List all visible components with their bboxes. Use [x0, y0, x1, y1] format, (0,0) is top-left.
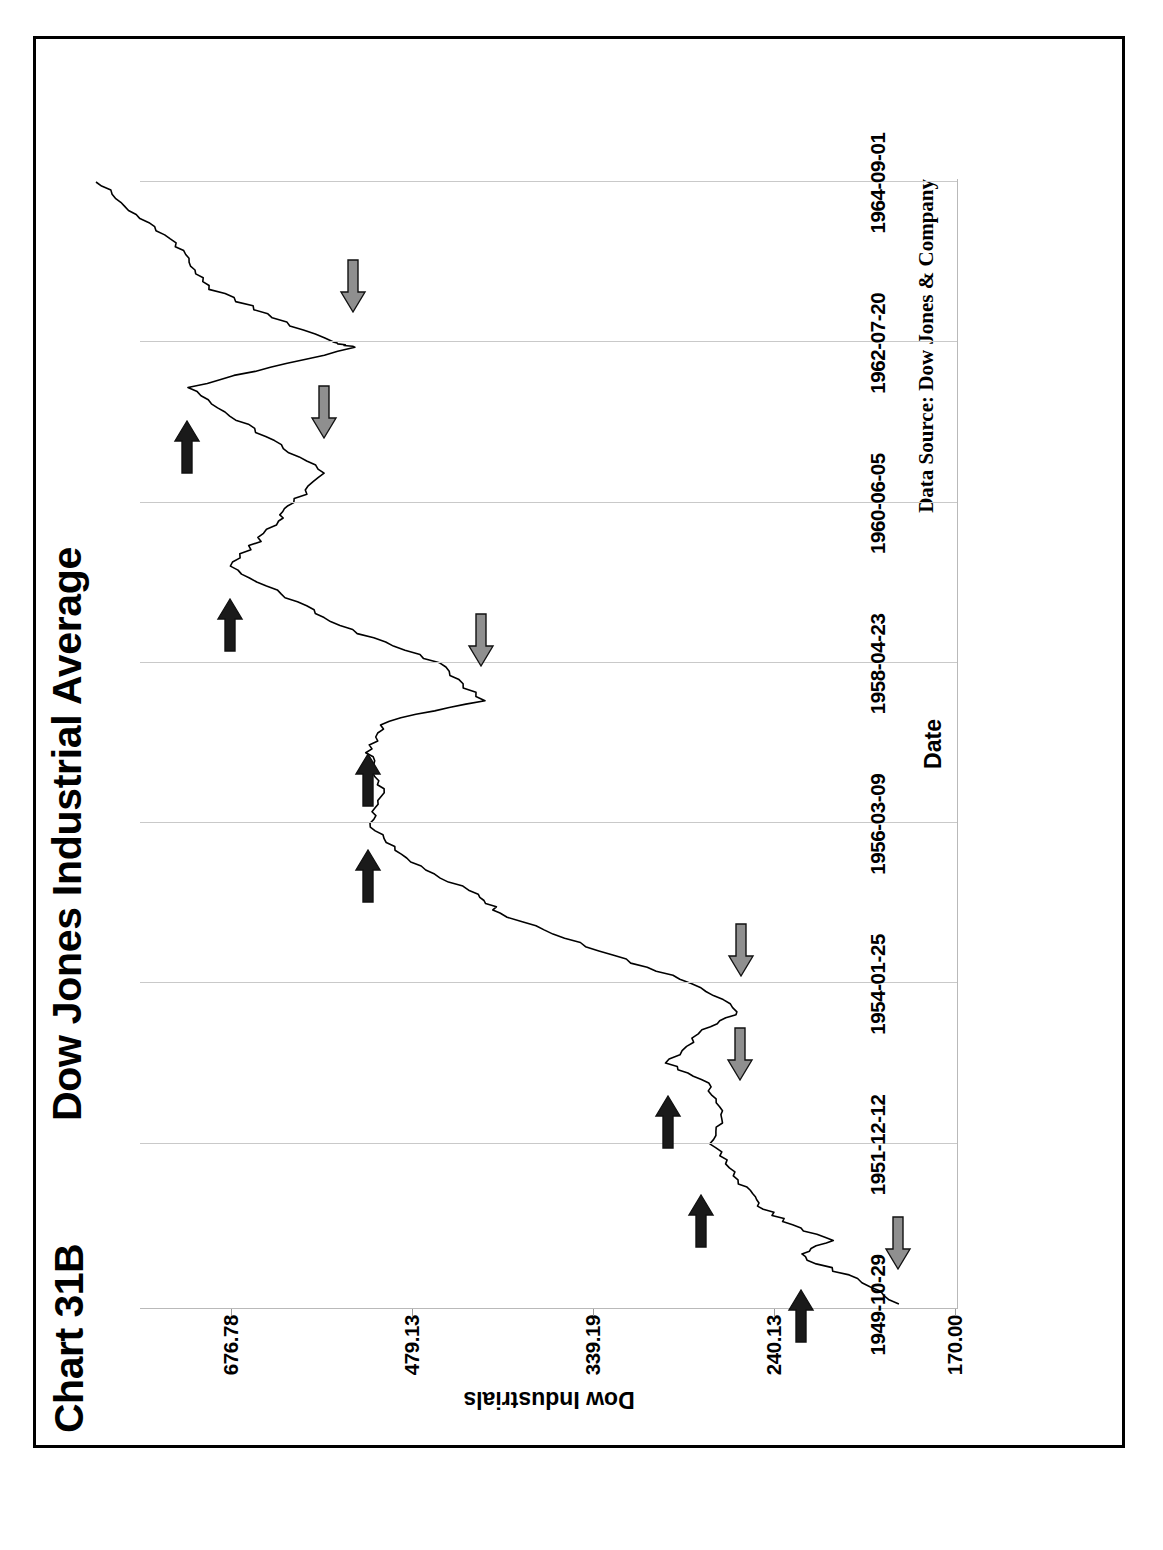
x-tick-label: 1951-12-12: [866, 1094, 890, 1195]
chart-page: Chart 31B Dow Jones Industrial Average D…: [0, 0, 1163, 1550]
x-tick-label: 1964-09-01: [866, 133, 890, 234]
rotated-chart-stage: Chart 31B Dow Jones Industrial Average D…: [36, 39, 1128, 1451]
y-axis-tick: [231, 1309, 232, 1316]
x-tick-label: 1956-03-09: [866, 774, 890, 875]
x-tick-label: 1962-07-20: [866, 293, 890, 394]
peak-arrow-marker: [786, 1288, 816, 1344]
y-axis-tick: [593, 1309, 594, 1316]
y-tick-label: 676.78: [219, 1315, 243, 1375]
x-gridline: [140, 502, 957, 503]
y-tick-label: 170.00: [943, 1315, 967, 1375]
x-tick-label: 1960-06-05: [866, 453, 890, 554]
y-axis-tick: [412, 1309, 413, 1316]
trough-arrow-marker: [309, 384, 339, 440]
peak-arrow-marker: [353, 848, 383, 904]
plot-area: [140, 179, 958, 1309]
y-tick-label: 240.13: [762, 1315, 786, 1375]
x-gridline: [140, 982, 957, 983]
trough-arrow-marker: [725, 1026, 755, 1082]
y-axis-title: Dow Industrials: [463, 1386, 634, 1413]
y-tick-label: 479.13: [400, 1315, 424, 1375]
peak-arrow-marker: [653, 1094, 683, 1150]
x-gridline: [140, 662, 957, 663]
trough-arrow-marker: [726, 922, 756, 978]
y-axis-tick: [774, 1309, 775, 1316]
peak-arrow-marker: [215, 597, 245, 653]
x-gridline: [140, 181, 957, 182]
dow-industrials-line: [140, 178, 958, 1308]
x-gridline: [140, 822, 957, 823]
y-tick-label: 339.19: [581, 1315, 605, 1375]
x-gridline: [140, 1143, 957, 1144]
chart-frame: Chart 31B Dow Jones Industrial Average D…: [33, 36, 1125, 1448]
x-tick-label: 1954-01-25: [866, 934, 890, 1035]
x-tick-label: 1958-04-23: [866, 613, 890, 714]
trough-arrow-marker: [466, 612, 496, 668]
peak-arrow-marker: [353, 752, 383, 808]
y-axis-tick: [955, 1309, 956, 1316]
trough-arrow-marker: [338, 258, 368, 314]
chart-number-label: Chart 31B: [46, 1244, 93, 1433]
chart-title: Dow Jones Industrial Average: [44, 547, 91, 1121]
peak-arrow-marker: [686, 1193, 716, 1249]
peak-arrow-marker: [172, 419, 202, 475]
trough-arrow-marker: [883, 1215, 913, 1271]
x-gridline: [140, 341, 957, 342]
